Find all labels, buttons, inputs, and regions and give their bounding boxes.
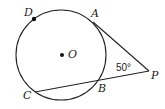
label-c: C xyxy=(23,89,32,102)
geometry-diagram: D A O P B C 50° xyxy=(0,0,165,109)
center-o-dot xyxy=(60,53,64,57)
secant-pc xyxy=(35,71,149,92)
label-b: B xyxy=(97,82,106,95)
angle-p-label: 50° xyxy=(116,62,131,73)
label-o: O xyxy=(68,48,77,61)
label-a: A xyxy=(90,7,99,20)
label-d: D xyxy=(23,6,33,19)
label-p: P xyxy=(150,69,159,82)
